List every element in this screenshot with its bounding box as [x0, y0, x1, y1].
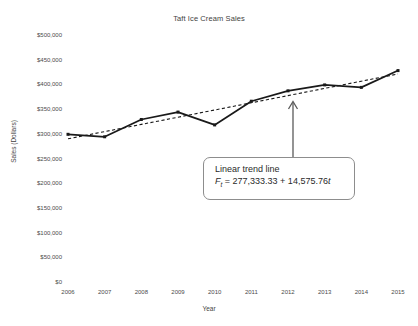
data-point-marker [103, 135, 106, 138]
data-point-marker [250, 100, 253, 103]
sales-line-series [68, 71, 398, 137]
data-point-marker [140, 118, 143, 121]
callout-equation: Ft = 277,333.33 + 14,575.76t [215, 175, 354, 191]
data-point-marker [397, 69, 400, 72]
data-point-marker [323, 83, 326, 86]
trend-callout-box: Linear trend line Ft = 277,333.33 + 14,5… [203, 157, 355, 200]
data-point-marker [177, 111, 180, 114]
data-point-marker [213, 123, 216, 126]
trend-line-series [68, 74, 398, 139]
sales-data-markers [67, 69, 400, 138]
data-point-marker [67, 133, 70, 136]
callout-title: Linear trend line [215, 164, 354, 175]
chart-container: Taft Ice Cream Sales Sales (Dollars) Yea… [0, 0, 418, 326]
callout-pointer-arrow [289, 102, 298, 158]
data-point-marker [360, 86, 363, 89]
equation-rhs: = 277,333.33 + 14,575.76 [222, 176, 328, 186]
data-point-marker [287, 89, 290, 92]
equation-variable: t [328, 176, 331, 186]
